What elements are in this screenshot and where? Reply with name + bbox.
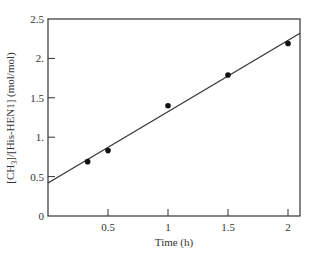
y-tick-label: 2. — [36, 52, 45, 64]
plot-frame — [48, 19, 300, 216]
data-point — [285, 41, 291, 47]
y-tick-label: 0.5 — [30, 171, 44, 183]
chart: 00.51.1.52.2.5 0.511.52 Time (h) [CH3]/[… — [0, 0, 312, 256]
x-tick-label: 1.5 — [221, 221, 235, 233]
y-tick-label: 0 — [39, 210, 45, 222]
y-tick-label: 1.5 — [30, 92, 44, 104]
y-axis-label: [CH3]/[His-HEN1] (mol/mol) — [4, 52, 19, 184]
data-point — [225, 72, 231, 78]
y-axis-label-open: [CH — [4, 165, 16, 184]
data-points — [85, 41, 291, 165]
data-point — [85, 159, 91, 165]
y-axis-label-rest: ]/[His-HEN1] (mol/mol) — [4, 52, 17, 161]
data-point — [105, 148, 111, 154]
x-tick-label: 1 — [165, 221, 171, 233]
y-tick-label: 2.5 — [30, 13, 44, 25]
y-axis-ticks: 00.51.1.52.2.5 — [30, 13, 55, 222]
y-tick-label: 1. — [36, 131, 45, 143]
x-tick-label: 2 — [285, 221, 291, 233]
x-tick-label: 0.5 — [101, 221, 115, 233]
x-axis-ticks: 0.511.52 — [101, 209, 291, 233]
x-axis-label: Time (h) — [155, 236, 194, 249]
data-point — [165, 103, 171, 109]
